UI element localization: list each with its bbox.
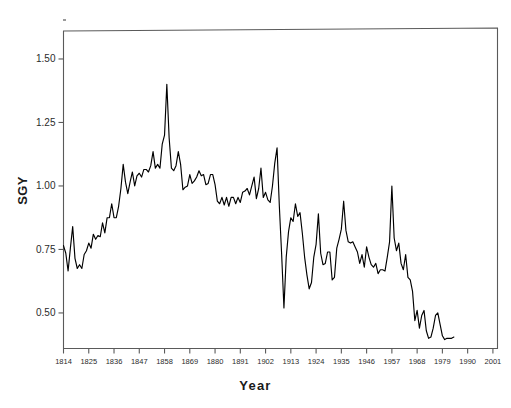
y-axis-title: SGY [9,160,35,220]
svg-text:0.75: 0.75 [36,244,56,255]
svg-text:1968: 1968 [409,357,426,366]
svg-text:1814: 1814 [55,357,72,366]
sgy-time-series-chart: 1.501.251.000.750.50 1814182518361847185… [0,0,511,408]
svg-text:0.50: 0.50 [36,307,56,318]
y-axis-title-text: SGY [15,176,30,204]
svg-text:1825: 1825 [80,357,97,366]
svg-text:1.00: 1.00 [36,180,56,191]
svg-text:1924: 1924 [308,357,325,366]
svg-text:1935: 1935 [333,357,350,366]
svg-text:1847: 1847 [131,357,148,366]
svg-text:1957: 1957 [384,357,401,366]
svg-text:1836: 1836 [106,357,123,366]
svg-text:1913: 1913 [282,357,299,366]
x-axis-title: Year [0,378,511,393]
svg-text:1.50: 1.50 [36,53,56,64]
svg-text:1990: 1990 [459,357,476,366]
data-series-sgy [64,84,454,339]
x-axis-ticks: 1814182518361847185818691880189119021913… [55,349,501,366]
svg-text:1902: 1902 [257,357,274,366]
svg-text:1891: 1891 [232,357,249,366]
figure-canvas: 1.501.251.000.750.50 1814182518361847185… [0,0,511,408]
svg-text:2001: 2001 [485,357,502,366]
svg-text:1979: 1979 [434,357,451,366]
y-axis-ticks: 1.501.251.000.750.50 [36,53,63,318]
svg-text:1.25: 1.25 [36,117,56,128]
svg-text:1858: 1858 [156,357,173,366]
svg-text:1946: 1946 [358,357,375,366]
svg-text:1869: 1869 [181,357,198,366]
svg-text:1880: 1880 [207,357,224,366]
